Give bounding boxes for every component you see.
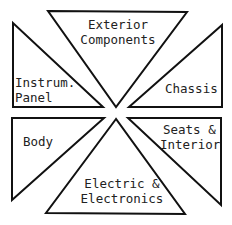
- instrum-line2: Panel: [15, 90, 75, 105]
- electric-line2: Electronics: [78, 191, 166, 206]
- instrument-panel-label: Instrum. Panel: [15, 75, 75, 105]
- exterior-line2: Components: [78, 32, 158, 47]
- exterior-line1: Exterior: [78, 17, 158, 32]
- chassis-line1: Chassis: [165, 81, 218, 96]
- seats-interior-label: Seats & Interior: [160, 122, 220, 152]
- body-line1: Body: [23, 134, 53, 149]
- seats-line2: Interior: [160, 137, 220, 152]
- seats-line1: Seats &: [160, 122, 220, 137]
- instrum-line1: Instrum.: [15, 75, 75, 90]
- chassis-label: Chassis: [165, 81, 218, 96]
- body-label: Body: [23, 134, 53, 149]
- electric-line1: Electric &: [78, 176, 166, 191]
- electric-electronics-label: Electric & Electronics: [78, 176, 166, 206]
- exterior-components-label: Exterior Components: [78, 17, 158, 47]
